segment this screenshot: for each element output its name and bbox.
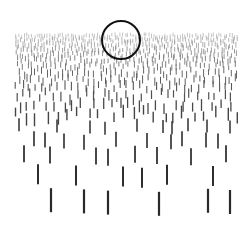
- texture-gradient-figure: [0, 0, 251, 232]
- texture-gradient-canvas: [0, 0, 251, 232]
- dense-line-field: [15, 33, 237, 127]
- sparse-line-field: [19, 118, 230, 216]
- focus-circle: [102, 21, 140, 59]
